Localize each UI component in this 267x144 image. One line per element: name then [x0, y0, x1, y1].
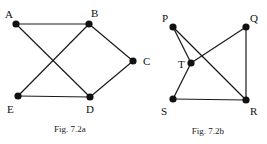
node-label-c: C: [143, 55, 150, 67]
edge-s-r: [173, 99, 246, 100]
node-t: [187, 59, 194, 66]
node-p: [169, 23, 176, 30]
node-label-r: R: [250, 105, 258, 117]
node-d: [86, 93, 93, 100]
node-label-a: A: [5, 8, 13, 20]
node-s: [169, 95, 176, 102]
node-label-e: E: [7, 103, 14, 115]
figure-7-2b: PQTSRFig. 7.2b: [161, 12, 258, 136]
node-label-b: B: [91, 7, 98, 19]
node-a: [12, 20, 19, 27]
figure-7-2a: ABCEDFig. 7.2a: [5, 7, 150, 134]
node-label-q: Q: [250, 12, 258, 24]
node-label-p: P: [162, 12, 168, 24]
figure-caption: Fig. 7.2b: [192, 126, 225, 136]
edge-b-c: [89, 24, 133, 61]
edge-t-q: [191, 27, 246, 63]
node-b: [85, 20, 92, 27]
edge-e-d: [18, 96, 90, 97]
node-label-s: S: [161, 105, 167, 117]
figure-caption: Fig. 7.2a: [54, 124, 86, 134]
node-q: [242, 23, 249, 30]
edge-d-c: [90, 61, 133, 97]
node-r: [242, 96, 249, 103]
graph-figures: ABCEDFig. 7.2aPQTSRFig. 7.2b: [0, 0, 267, 144]
node-label-d: D: [86, 103, 94, 115]
node-c: [129, 57, 136, 64]
node-e: [14, 92, 21, 99]
node-label-t: T: [178, 58, 185, 70]
